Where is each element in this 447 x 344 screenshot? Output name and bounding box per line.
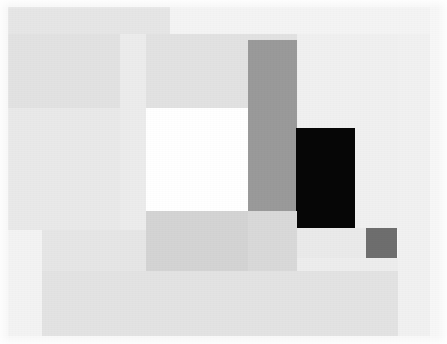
upper-left-broad-band (8, 7, 170, 34)
center-left-light-block (120, 34, 146, 230)
black-rect-lower-field (297, 228, 366, 258)
artwork-canvas (0, 0, 447, 344)
bottom-wide-band (8, 271, 430, 336)
white-rectangle (146, 108, 248, 211)
upper-right-pale-panel (170, 7, 430, 34)
medium-gray-vertical-bar (248, 40, 297, 211)
gray-bar-lower-shadow (248, 211, 297, 271)
dark-gray-square (366, 228, 397, 258)
lower-left-bright-patch (8, 230, 42, 336)
black-rectangle (296, 128, 355, 228)
right-edge-pale-strip (398, 34, 430, 336)
